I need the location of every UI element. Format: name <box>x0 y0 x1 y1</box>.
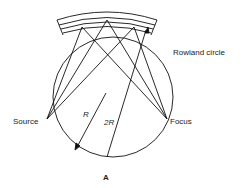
rowland-circle-label: Rowland circle <box>173 48 225 57</box>
crystal <box>57 12 157 33</box>
rowland-diagram <box>0 0 245 188</box>
focus-label: Focus <box>170 117 192 126</box>
panel-label: A <box>103 173 109 182</box>
two-radius-label: 2R <box>104 118 114 127</box>
radius-label: R <box>83 110 89 119</box>
source-label: Source <box>13 117 38 126</box>
